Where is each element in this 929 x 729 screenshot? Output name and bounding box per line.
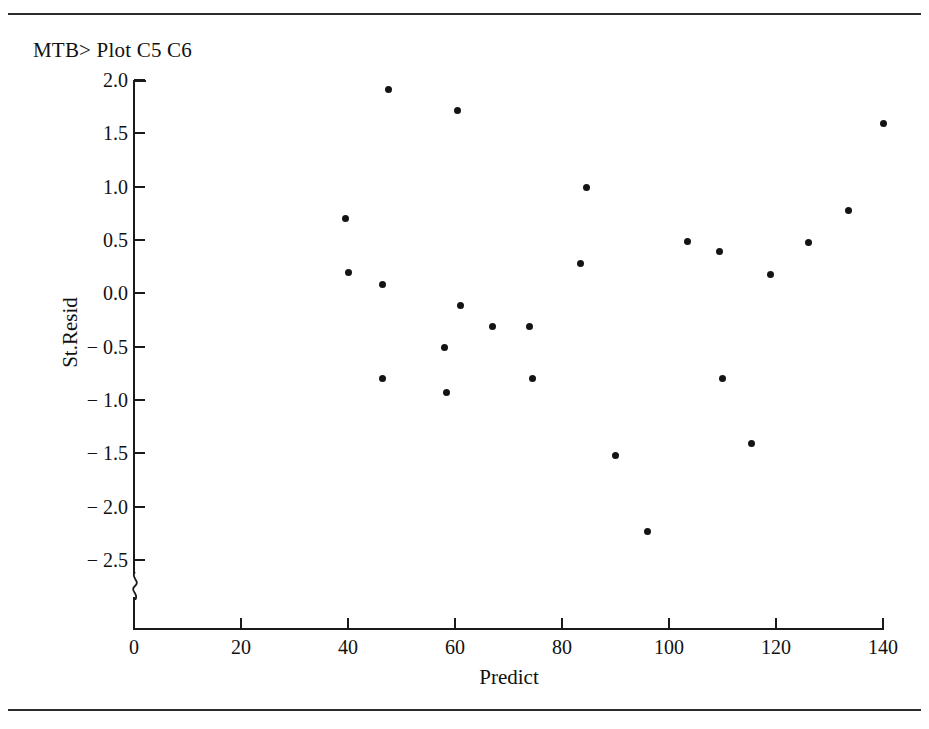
y-axis-spine <box>133 80 135 574</box>
x-axis-tick <box>561 618 563 629</box>
y-axis-tick <box>134 559 145 561</box>
data-point <box>489 323 496 330</box>
data-point <box>719 375 726 382</box>
data-point <box>684 238 691 245</box>
data-point <box>385 86 392 93</box>
data-point <box>805 239 812 246</box>
x-axis-tick-label: 80 <box>522 636 602 658</box>
y-axis-tick <box>134 399 145 401</box>
x-axis-tick <box>240 618 242 629</box>
data-point <box>577 260 584 267</box>
y-axis-tick <box>134 452 145 454</box>
x-axis-tick <box>668 618 670 629</box>
x-axis-tick <box>882 618 884 629</box>
y-axis-tick-label: 1.0 <box>0 177 128 197</box>
x-axis-tick-label: 100 <box>629 636 709 658</box>
y-axis-tick <box>134 506 145 508</box>
x-axis-tick <box>454 618 456 629</box>
y-axis-tick-label: − 1.5 <box>0 443 128 463</box>
data-point <box>342 215 349 222</box>
x-axis-tick-label: 60 <box>415 636 495 658</box>
x-axis-tick <box>347 618 349 629</box>
data-point <box>767 271 774 278</box>
data-point <box>345 269 352 276</box>
data-point <box>379 375 386 382</box>
data-point <box>644 528 651 535</box>
x-axis-spine <box>133 628 884 630</box>
y-axis-tick-label-text: 2.0 <box>32 70 128 90</box>
data-point <box>454 107 461 114</box>
y-axis-tick-label-text: − 2.0 <box>32 497 128 517</box>
x-axis-tick-label: 140 <box>843 636 923 658</box>
scatter-plot: 2.01.51.00.50.0− 0.5− 1.0− 1.5− 2.0− 2.5… <box>0 0 929 729</box>
y-axis-break-icon <box>126 572 144 600</box>
x-axis-tick-label: 120 <box>736 636 816 658</box>
data-point <box>529 375 536 382</box>
x-axis-tick-label: 20 <box>201 636 281 658</box>
y-axis-tick-label-text: − 1.5 <box>32 443 128 463</box>
y-axis-tick <box>134 79 145 81</box>
y-axis-tick <box>134 292 145 294</box>
x-axis-tick <box>775 618 777 629</box>
y-axis-tick-label: 2.0 <box>0 70 128 90</box>
y-axis-tick-label: − 2.0 <box>0 497 128 517</box>
y-axis-tick-label-text: 1.5 <box>32 123 128 143</box>
data-point <box>583 184 590 191</box>
data-point <box>441 344 448 351</box>
y-axis-tick-label-text: 1.0 <box>32 177 128 197</box>
data-point <box>526 323 533 330</box>
y-axis-tick <box>134 132 145 134</box>
data-point <box>443 389 450 396</box>
y-axis-label: St.Resid <box>58 253 83 413</box>
y-axis-tick-label: 1.5 <box>0 123 128 143</box>
data-point <box>880 120 887 127</box>
x-axis-tick <box>133 618 135 629</box>
y-axis-tick-label: 0.5 <box>0 230 128 250</box>
data-point <box>457 302 464 309</box>
y-axis-tick-label-text: − 2.5 <box>32 550 128 570</box>
data-point <box>748 440 755 447</box>
x-axis-tick-label: 40 <box>308 636 388 658</box>
y-axis-tick-label-text: 0.5 <box>32 230 128 250</box>
data-point <box>845 207 852 214</box>
y-axis-tick <box>134 239 145 241</box>
y-axis-tick <box>134 186 145 188</box>
y-axis-tick <box>134 346 145 348</box>
data-point <box>716 248 723 255</box>
x-axis-label: Predict <box>0 665 929 690</box>
y-axis-tick-label: − 2.5 <box>0 550 128 570</box>
x-axis-tick-label: 0 <box>94 636 174 658</box>
data-point <box>612 452 619 459</box>
data-point <box>379 281 386 288</box>
